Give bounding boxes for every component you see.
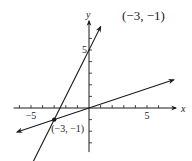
- y-tick-label: 5: [82, 44, 87, 55]
- line-steep: [28, 27, 101, 161]
- x-axis-label: x: [180, 103, 186, 114]
- chart-title: (−3, −1): [122, 8, 165, 23]
- line-shallow: [17, 80, 174, 132]
- chart: (−3, −1) x y −555 (−3, −1): [0, 0, 192, 161]
- tick-labels: −555: [26, 44, 150, 121]
- intersection-label: (−3, −1): [51, 123, 84, 135]
- y-axis-label: y: [85, 9, 91, 20]
- axes: [14, 21, 176, 152]
- point-labels: (−3, −1): [51, 123, 84, 135]
- x-tick-label: −5: [26, 110, 37, 121]
- points: [52, 117, 56, 121]
- x-tick-label: 5: [145, 110, 150, 121]
- intersection-point: [52, 117, 56, 121]
- lines: [17, 27, 174, 161]
